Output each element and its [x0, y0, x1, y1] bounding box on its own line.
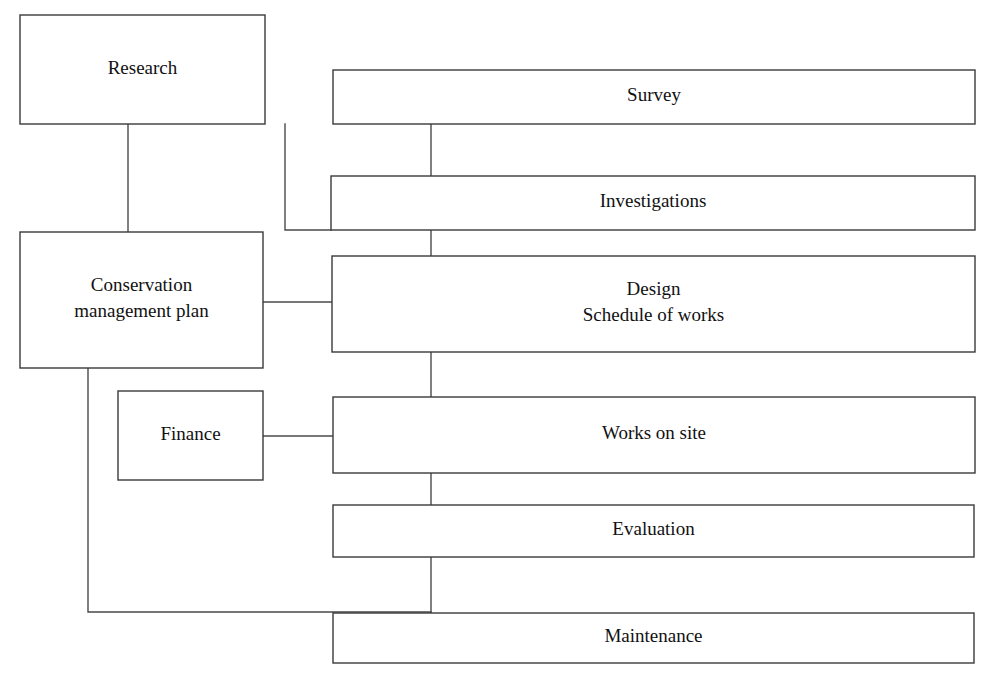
node-label-research: Research — [108, 57, 178, 78]
conservation-workflow-diagram: ResearchSurveyInvestigationsConservation… — [0, 0, 989, 680]
node-label-evaluation: Evaluation — [612, 518, 695, 539]
node-conservation-management-plan[interactable]: Conservationmanagement plan — [20, 232, 263, 368]
node-finance[interactable]: Finance — [118, 391, 263, 480]
node-label-finance: Finance — [160, 423, 220, 444]
node-label-maintenance: Maintenance — [604, 625, 702, 646]
node-survey[interactable]: Survey — [333, 70, 975, 124]
node-label-design-schedule-of-works: Schedule of works — [583, 304, 724, 325]
node-maintenance[interactable]: Maintenance — [333, 613, 974, 663]
node-layer: ResearchSurveyInvestigationsConservation… — [20, 15, 975, 663]
node-label-survey: Survey — [627, 84, 681, 105]
flowchart-canvas: ResearchSurveyInvestigationsConservation… — [0, 0, 989, 680]
node-label-works-on-site: Works on site — [602, 422, 706, 443]
node-works-on-site[interactable]: Works on site — [333, 397, 975, 473]
node-label-investigations: Investigations — [600, 190, 707, 211]
node-label-design-schedule-of-works: Design — [627, 278, 681, 299]
connector-research-to-investigations — [285, 124, 331, 230]
node-evaluation[interactable]: Evaluation — [333, 505, 974, 557]
node-investigations[interactable]: Investigations — [331, 176, 975, 230]
node-label-conservation-management-plan: management plan — [74, 300, 209, 321]
node-label-conservation-management-plan: Conservation — [91, 274, 193, 295]
node-design-schedule-of-works[interactable]: DesignSchedule of works — [332, 256, 975, 352]
node-research[interactable]: Research — [20, 15, 265, 124]
